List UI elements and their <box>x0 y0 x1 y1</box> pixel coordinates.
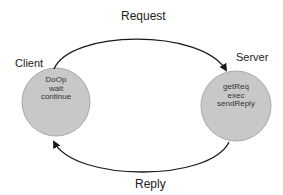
reply-label: Reply <box>135 177 166 191</box>
server-label: Server <box>236 51 268 63</box>
client-steps: DoOp wait continue <box>26 76 86 102</box>
server-steps: getReq exec sendReply <box>206 83 266 109</box>
client-label: Client <box>15 57 43 69</box>
request-label: Request <box>121 9 166 23</box>
reply-arrow <box>54 142 229 172</box>
client-step-continue: continue <box>26 93 86 102</box>
request-arrow <box>54 39 226 70</box>
server-step-sendreply: sendReply <box>206 100 266 109</box>
